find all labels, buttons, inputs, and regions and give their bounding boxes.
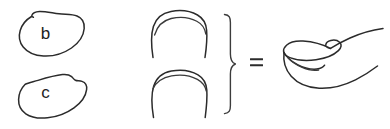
- right-curly-brace: [225, 15, 236, 114]
- line-drawing-figure: b c: [0, 0, 390, 129]
- arch-upper-inner-curve: [155, 17, 206, 35]
- arch-lower-group: [152, 70, 207, 117]
- arch-lower-outer-outline: [152, 70, 207, 117]
- blob-c-outline: [19, 74, 87, 118]
- equals-bar-top: [250, 58, 263, 60]
- figure-canvas: b c: [0, 0, 390, 129]
- brace-path: [225, 15, 236, 114]
- blob-b-label: b: [41, 24, 50, 43]
- composite-bottom-sweep: [284, 52, 378, 88]
- blob-c-group: c: [19, 74, 87, 118]
- composite-shape-group: [284, 29, 383, 89]
- equals-sign: [250, 58, 263, 66]
- arch-upper-group: [152, 11, 207, 58]
- arch-lower-inner-curve: [153, 75, 206, 91]
- blob-b-outline: [19, 11, 84, 56]
- blob-c-label: c: [41, 83, 50, 102]
- composite-upper-surface: [284, 40, 342, 60]
- composite-top-ridge: [331, 29, 384, 49]
- equals-bar-bottom: [250, 64, 263, 66]
- blob-b-group: b: [19, 11, 84, 56]
